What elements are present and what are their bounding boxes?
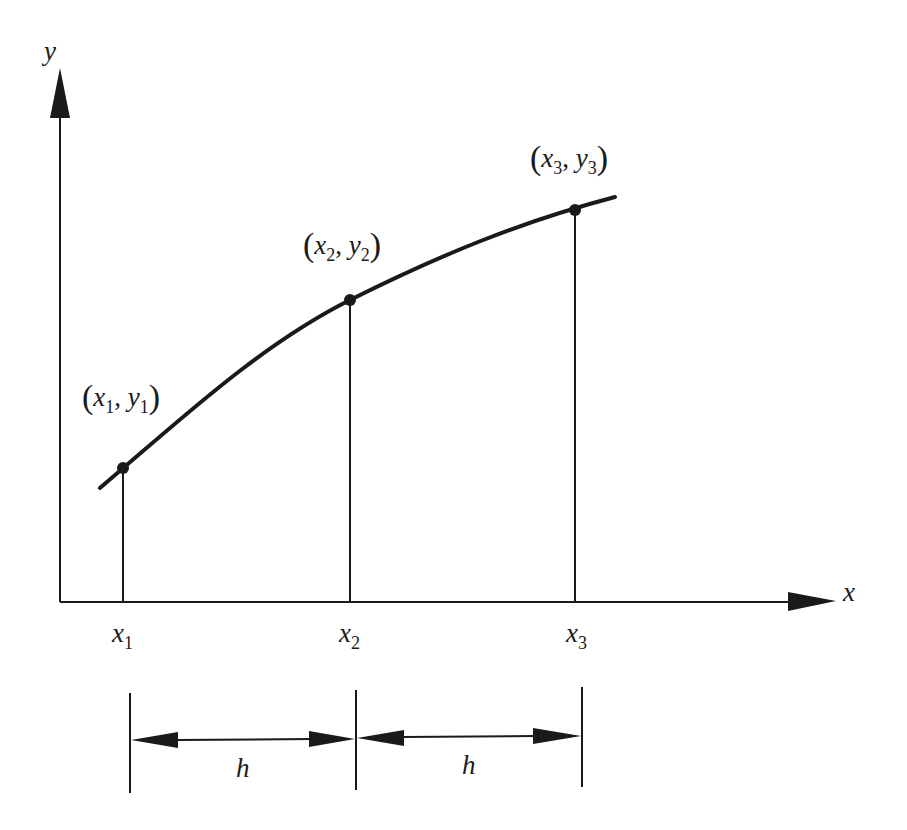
x-tick-label-1: x1 [112,620,133,647]
point-label-1: (x1, y1() [82,380,160,414]
x-axis-label: x [843,579,855,606]
dimension-arrow-left-icon [357,730,404,746]
point-marker-1 [117,462,129,474]
point-marker-3 [569,204,581,216]
dimension-arrow-left-icon [131,732,178,748]
dimension-arrow-right-icon [533,728,581,744]
x-tick-label-2: x2 [339,620,360,647]
spacing-label-2: h [462,752,476,779]
y-axis [50,68,70,602]
point-marker-2 [344,294,356,306]
ordinate-lines [123,210,575,602]
y-axis-arrowhead-icon [50,68,70,118]
dimension-arrow-right-icon [309,731,355,747]
x-axis [60,592,836,611]
x-tick-label-3: x3 [566,620,587,647]
diagram-graphics [0,0,907,830]
point-label-2: (x2, y2) [303,228,381,262]
spacing-dimension [130,687,582,793]
diagram-canvas: y x (x1, y1() (x2, y2) (x3, y3) x1 x2 x3… [0,0,907,830]
y-axis-label: y [44,38,56,65]
point-label-3: (x3, y3) [530,141,608,175]
spacing-label-1: h [236,755,250,782]
x-axis-arrowhead-icon [788,592,836,611]
